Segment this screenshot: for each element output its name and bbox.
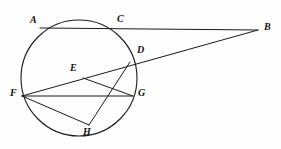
figure-canvas — [0, 0, 281, 149]
segment-E-G — [83, 78, 133, 96]
point-label-F: F — [10, 88, 17, 98]
point-label-C: C — [117, 14, 124, 24]
point-label-H: H — [83, 127, 91, 137]
segment-F-H — [22, 96, 89, 125]
point-label-G: G — [138, 88, 145, 98]
segment-A-B — [40, 28, 258, 30]
geometry-figure: A B C D E F G H — [0, 0, 281, 149]
point-label-A: A — [30, 15, 37, 25]
point-label-D: D — [137, 45, 144, 55]
point-label-B: B — [264, 22, 271, 32]
point-label-E: E — [70, 63, 77, 73]
